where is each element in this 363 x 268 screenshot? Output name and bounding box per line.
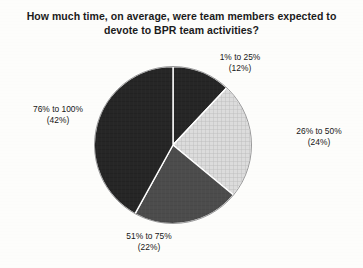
slice-label-1-to-25-value: (12%) (205, 63, 275, 74)
pie-svg (93, 65, 253, 225)
slice-label-1-to-25-range: 1% to 25% (205, 52, 275, 63)
chart-title-line-2: devote to BPR team activities? (14, 23, 349, 37)
slice-label-51-to-75-value: (22%) (112, 242, 186, 253)
slice-label-26-to-50-value: (24%) (282, 137, 356, 148)
chart-title-line-1: How much time, on average, were team mem… (14, 9, 349, 23)
slice-label-51-to-75: 51% to 75% (22%) (112, 231, 186, 252)
slice-label-26-to-50-range: 26% to 50% (282, 126, 356, 137)
pie-chart-figure: How much time, on average, were team mem… (0, 0, 363, 268)
slice-label-76-to-100: 76% to 100% (42%) (19, 104, 97, 125)
pie-graphic (93, 65, 253, 225)
slice-label-26-to-50: 26% to 50% (24%) (282, 126, 356, 147)
slice-label-1-to-25: 1% to 25% (12%) (205, 52, 275, 73)
slice-label-51-to-75-range: 51% to 75% (112, 231, 186, 242)
chart-title: How much time, on average, were team mem… (14, 9, 349, 37)
slice-label-76-to-100-range: 76% to 100% (19, 104, 97, 115)
slice-label-76-to-100-value: (42%) (19, 115, 97, 126)
